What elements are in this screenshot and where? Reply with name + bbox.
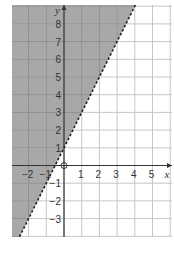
y-tick-label: 5 xyxy=(55,72,61,83)
y-tick-label: 1 xyxy=(55,143,61,154)
y-tick-label: 3 xyxy=(55,107,61,118)
x-tick-label: 4 xyxy=(131,169,137,180)
y-tick-label: −1 xyxy=(50,178,62,189)
x-tick-label: 1 xyxy=(78,169,84,180)
y-tick-label: −2 xyxy=(50,196,62,207)
y-tick-label: 4 xyxy=(55,90,61,101)
inequality-graph: −2−11234587654321−1−2−3xy xyxy=(0,0,174,254)
x-tick-label: 2 xyxy=(96,169,102,180)
x-tick-label: −2 xyxy=(22,169,34,180)
x-tick-label: 5 xyxy=(149,169,155,180)
x-axis-label: x xyxy=(164,168,170,180)
y-tick-label: 2 xyxy=(55,125,61,136)
x-tick-label: 3 xyxy=(113,169,119,180)
y-axis-label: y xyxy=(54,4,60,16)
y-tick-label: 8 xyxy=(55,19,61,30)
y-tick-label: −3 xyxy=(50,214,62,225)
y-tick-label: 7 xyxy=(55,37,61,48)
y-tick-label: 6 xyxy=(55,54,61,65)
